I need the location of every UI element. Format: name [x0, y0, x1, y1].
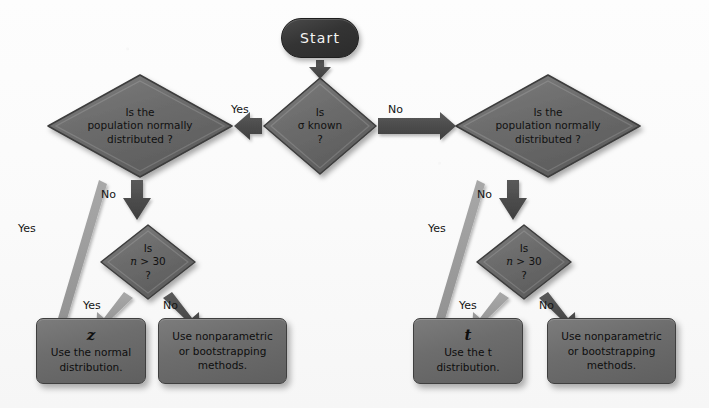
terminal-nonparametric-left[interactable]: Use nonparametric or bootstrapping metho… — [158, 318, 287, 384]
decision-n30-right-label: Is n > 30 ? — [477, 225, 571, 299]
edge-sigma-no-to-population-right — [378, 112, 456, 140]
n30-left-expression: n > 30 — [130, 255, 166, 269]
decision-population-left-label: Is the population normally distributed ? — [48, 75, 232, 177]
decision-n30-left[interactable]: Is n > 30 ? — [101, 225, 195, 299]
terminal-nonparametric-right[interactable]: Use nonparametric or bootstrapping metho… — [547, 318, 676, 384]
decision-population-right[interactable]: Is the population normally distributed ? — [456, 75, 640, 177]
start-label: Start — [300, 30, 340, 46]
edge-label-n30-right-no: No — [539, 299, 554, 312]
edge-label-population-right-no: No — [477, 188, 492, 201]
edge-sigma-yes-to-population-left — [234, 112, 262, 140]
edge-label-n30-right-yes: Yes — [459, 299, 477, 312]
decision-population-right-label: Is the population normally distributed ? — [456, 75, 640, 177]
decision-sigma[interactable]: Is σ known ? — [264, 78, 376, 174]
edge-population-right-no-to-n30 — [499, 180, 527, 220]
decision-n30-right[interactable]: Is n > 30 ? — [477, 225, 571, 299]
flowchart-canvas: Start Is the population normally distrib… — [0, 0, 709, 408]
n30-right-expression: n > 30 — [506, 255, 542, 269]
terminal-t-distribution[interactable]: t Use the t distribution. — [413, 318, 523, 384]
decision-sigma-label: Is σ known ? — [264, 78, 376, 174]
z-symbol: z — [87, 327, 96, 344]
edge-label-sigma-no: No — [388, 103, 403, 116]
t-symbol: t — [465, 327, 472, 344]
edge-label-sigma-yes: Yes — [231, 103, 249, 116]
start-node[interactable]: Start — [281, 18, 359, 58]
edge-population-left-no-to-n30 — [123, 180, 151, 220]
terminal-z-normal-distribution[interactable]: z Use the normal distribution. — [36, 318, 146, 384]
edge-label-n30-left-no: No — [163, 299, 178, 312]
edge-label-n30-left-yes: Yes — [83, 299, 101, 312]
edge-label-population-left-no: No — [101, 188, 116, 201]
edge-label-population-right-yes: Yes — [428, 222, 446, 235]
edge-label-population-left-yes: Yes — [18, 222, 36, 235]
edge-start-to-sigma — [309, 60, 331, 79]
decision-n30-left-label: Is n > 30 ? — [101, 225, 195, 299]
decision-population-left[interactable]: Is the population normally distributed ? — [48, 75, 232, 177]
